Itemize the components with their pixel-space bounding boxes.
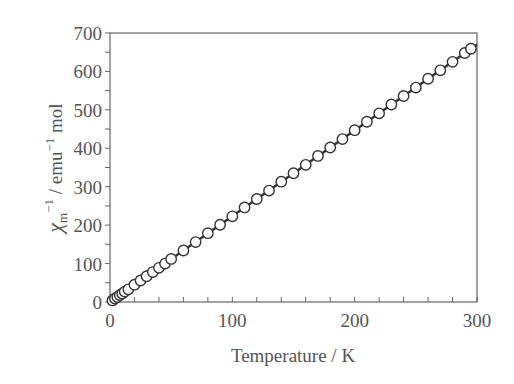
y-tick-label: 0 — [93, 292, 103, 313]
x-tick-label: 0 — [105, 310, 115, 331]
data-point — [337, 134, 347, 144]
x-tick-label: 200 — [340, 310, 369, 331]
x-tick-label: 100 — [218, 310, 247, 331]
data-point — [264, 185, 274, 195]
y-axis-ticks: 0100200300400500600700 — [74, 23, 111, 313]
data-point — [435, 65, 445, 75]
y-tick-label: 300 — [74, 177, 103, 198]
chart: 0100200300400500600700 0100200300 Temper… — [0, 0, 514, 384]
y-tick-label: 700 — [74, 23, 103, 44]
data-point — [466, 44, 476, 54]
data-point — [447, 57, 457, 67]
y-axis-title: χm−1 / emu−1 mol — [41, 103, 70, 234]
data-point — [215, 220, 225, 230]
data-point — [203, 228, 213, 238]
data-point — [301, 160, 311, 170]
data-point — [349, 125, 359, 135]
data-point — [190, 237, 200, 247]
y-tick-label: 600 — [74, 61, 103, 82]
data-point — [313, 151, 323, 161]
y-tick-label: 500 — [74, 100, 103, 121]
data-point — [239, 202, 249, 212]
data-point — [411, 82, 421, 92]
y-tick-label: 200 — [74, 215, 103, 236]
data-point — [374, 108, 384, 118]
x-axis-title: Temperature / K — [231, 345, 356, 366]
data-point — [288, 168, 298, 178]
y-tick-label: 400 — [74, 138, 103, 159]
data-point — [398, 91, 408, 101]
data-point — [227, 211, 237, 221]
data-point — [362, 117, 372, 127]
data-point — [252, 194, 262, 204]
data-point — [325, 142, 335, 152]
x-tick-label: 300 — [463, 310, 492, 331]
data-point — [386, 99, 396, 109]
y-tick-label: 100 — [74, 254, 103, 275]
data-point — [276, 177, 286, 187]
data-point — [166, 254, 176, 264]
data-point — [178, 245, 188, 255]
data-point — [423, 74, 433, 84]
